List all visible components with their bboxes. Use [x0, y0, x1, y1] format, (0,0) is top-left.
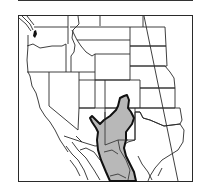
map-svg [0, 0, 198, 195]
range-map [0, 0, 198, 195]
